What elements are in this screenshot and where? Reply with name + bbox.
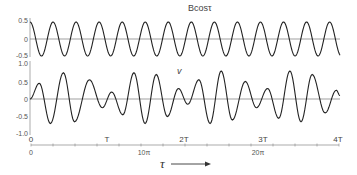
top-panel: Bcosτ 0.5 0 -0.5 — [16, 3, 340, 59]
top-panel-title: Bcosτ — [188, 3, 212, 13]
top-ytick-05: 0.5 — [18, 17, 28, 24]
mid-ytick-m05: -0.5 — [16, 113, 28, 120]
chart: Bcosτ 0.5 0 -0.5 v 1.0 0.5 0 -0.5 -1.0 0… — [0, 0, 357, 175]
top-ytick-0: 0 — [24, 36, 28, 43]
middle-panel-title: v — [177, 66, 182, 76]
pi-label-20pi: 20π — [252, 149, 265, 156]
mid-ytick-0: 0 — [24, 96, 28, 103]
x-axis: 0 10π 20π τ — [29, 144, 339, 172]
top-ytick-m05: -0.5 — [16, 52, 28, 59]
period-labels: 0 T 2T 3T 4T — [29, 135, 343, 144]
period-label-4T: 4T — [333, 135, 342, 144]
period-label-T: T — [105, 135, 110, 144]
period-label-2T: 2T — [179, 135, 188, 144]
mid-ytick-05: 0.5 — [18, 79, 28, 86]
mid-ytick-m1: -1.0 — [16, 130, 28, 137]
middle-panel: v 1.0 0.5 0 -0.5 -1.0 — [16, 60, 340, 137]
x-axis-arrow-head-icon — [205, 162, 211, 167]
pi-label-10pi: 10π — [138, 149, 151, 156]
mid-ytick-1: 1.0 — [18, 60, 28, 67]
v-curve — [30, 71, 340, 124]
x-axis-label-tau: τ — [160, 156, 166, 171]
period-label-3T: 3T — [258, 135, 267, 144]
pi-label-0: 0 — [29, 149, 33, 156]
period-label-0: 0 — [29, 135, 34, 144]
